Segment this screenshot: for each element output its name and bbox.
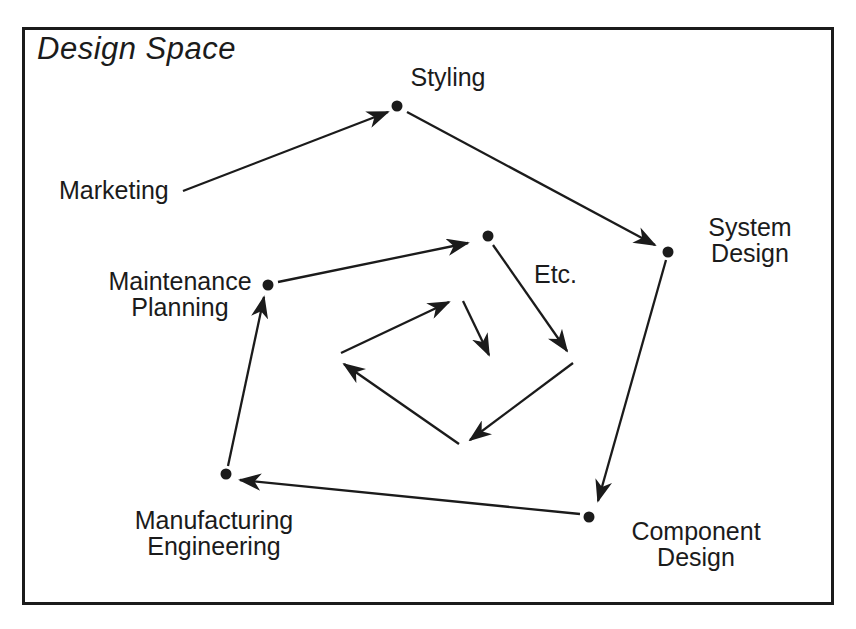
arrow-styling-to-system-design bbox=[407, 112, 655, 245]
maintenance-planning-dot bbox=[263, 280, 274, 291]
label-manufacturing-engineering: Manufacturing Engineering bbox=[135, 507, 293, 559]
arrow-spiral-left-to-top bbox=[341, 302, 449, 353]
label-component-design-line1: Component bbox=[631, 518, 760, 544]
arrow-maintenance-planning-to-etc bbox=[278, 243, 468, 282]
label-system-design-line1: System bbox=[708, 214, 791, 240]
component-design-dot bbox=[584, 512, 595, 523]
label-maintenance-planning: Maintenance Planning bbox=[108, 268, 251, 320]
label-system-design-line2: Design bbox=[708, 240, 791, 266]
arrow-marketing-to-styling bbox=[183, 112, 388, 191]
arrow-spiral-right-to-bottom bbox=[470, 363, 573, 440]
label-etc-line: Etc. bbox=[534, 261, 577, 287]
system-design-dot bbox=[663, 247, 674, 258]
design-space-figure: Design Space Marketing Styling System De… bbox=[0, 0, 856, 629]
arrow-spiral-inner bbox=[463, 301, 489, 355]
label-system-design: System Design bbox=[708, 214, 791, 266]
label-manufacturing-engineering-line2: Engineering bbox=[135, 533, 293, 559]
label-component-design: Component Design bbox=[631, 518, 760, 570]
label-etc: Etc. bbox=[534, 261, 577, 287]
etc-dot bbox=[483, 231, 494, 242]
arrow-system-design-to-component-design bbox=[598, 260, 666, 501]
label-styling-line: Styling bbox=[410, 64, 485, 90]
label-maintenance-planning-line1: Maintenance bbox=[108, 268, 251, 294]
label-styling: Styling bbox=[410, 64, 485, 90]
arrow-spiral-bottom-to-left bbox=[344, 364, 459, 444]
figure-title: Design Space bbox=[37, 31, 236, 67]
label-marketing-line: Marketing bbox=[59, 177, 169, 203]
manufacturing-engineering-dot bbox=[221, 469, 232, 480]
arrow-manufacturing-engineering-to-maintenance-planning bbox=[228, 297, 264, 466]
label-marketing: Marketing bbox=[59, 177, 169, 203]
label-maintenance-planning-line2: Planning bbox=[108, 294, 251, 320]
label-component-design-line2: Design bbox=[631, 544, 760, 570]
label-manufacturing-engineering-line1: Manufacturing bbox=[135, 507, 293, 533]
styling-dot bbox=[392, 101, 403, 112]
